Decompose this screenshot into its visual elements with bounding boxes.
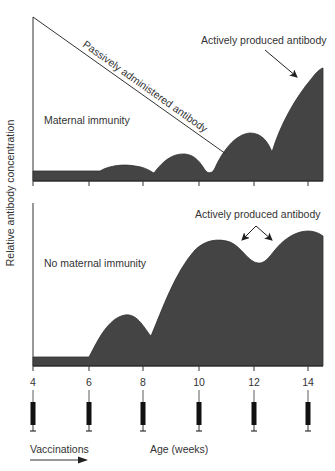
top-panel-label: Maternal immunity	[44, 114, 130, 126]
x-tick-label: 6	[86, 376, 92, 388]
bottom-active-antibody-area	[33, 231, 323, 366]
syringe-icon	[251, 390, 257, 431]
vaccination-syringes	[30, 390, 311, 431]
top-x-ticks	[33, 181, 308, 186]
syringe-icon	[305, 390, 311, 431]
x-tick-label: 14	[302, 376, 314, 388]
bottom-arrow-right	[256, 226, 272, 240]
top-annotation-label: Actively produced antibody	[201, 34, 327, 46]
bottom-x-ticks	[33, 366, 308, 371]
antibody-diagram: Passively administered antibody	[0, 0, 335, 471]
syringe-icon	[196, 390, 202, 431]
x-axis-label: Age (weeks)	[150, 443, 208, 455]
x-tick-label: 10	[193, 376, 205, 388]
top-arrow	[265, 50, 297, 77]
vaccinations-arrow-icon	[78, 457, 88, 464]
x-tick-label: 4	[30, 376, 36, 388]
x-tick-label: 12	[248, 376, 260, 388]
x-tick-label: 8	[140, 376, 146, 388]
syringe-icon	[86, 390, 92, 431]
syringe-icon	[140, 390, 146, 431]
syringe-icon	[30, 390, 36, 431]
bottom-annotation-label: Actively produced antibody	[195, 208, 321, 220]
bottom-panel-label: No maternal immunity	[44, 257, 146, 269]
y-axis-label: Relative antibody concentration	[4, 120, 16, 267]
bottom-arrow-left	[242, 226, 256, 240]
vaccinations-label: Vaccinations	[30, 443, 89, 455]
passive-antibody-line	[33, 17, 226, 154]
bottom-panel	[33, 203, 323, 371]
